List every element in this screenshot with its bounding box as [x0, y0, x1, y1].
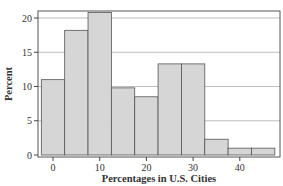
- histogram-bar: [251, 148, 274, 155]
- histogram-bar: [41, 80, 64, 155]
- histogram-bar: [158, 64, 181, 155]
- x-axis-label: Percentages in U.S. Cities: [102, 173, 216, 184]
- x-tick-label: 0: [51, 162, 56, 173]
- x-tick-label: 20: [141, 162, 151, 173]
- y-tick-label: 5: [27, 115, 32, 126]
- x-tick-label: 10: [95, 162, 105, 173]
- y-tick-label: 20: [22, 13, 32, 24]
- y-axis: 05101520: [22, 13, 38, 161]
- y-axis-label: Percent: [3, 66, 14, 101]
- y-tick-label: 0: [27, 150, 32, 161]
- histogram-bars: [41, 13, 275, 155]
- y-tick-label: 15: [22, 47, 32, 58]
- y-tick-label: 10: [22, 81, 32, 92]
- histogram-bar: [135, 97, 158, 155]
- histogram-bar: [88, 13, 111, 155]
- x-axis: 010203040: [51, 157, 245, 173]
- histogram-chart: 05101520 010203040 Percentages in U.S. C…: [0, 0, 283, 186]
- histogram-bar: [228, 148, 251, 155]
- histogram-bar: [111, 88, 134, 155]
- histogram-bar: [205, 139, 228, 155]
- histogram-bar: [65, 30, 88, 155]
- x-tick-label: 30: [188, 162, 198, 173]
- chart-canvas: 05101520 010203040 Percentages in U.S. C…: [0, 0, 283, 186]
- x-tick-label: 40: [235, 162, 245, 173]
- histogram-bar: [181, 64, 204, 155]
